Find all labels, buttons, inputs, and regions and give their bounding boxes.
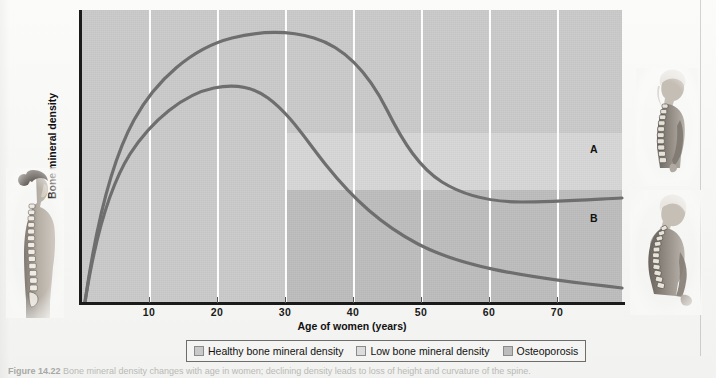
figure-caption: Figure 14.22 Bone mineral density change… — [8, 366, 708, 376]
legend-label-low: Low bone mineral density — [370, 345, 489, 357]
x-tick-70 — [557, 297, 558, 303]
x-tick-label-10: 10 — [134, 306, 164, 318]
illustration-young-woman-upright-spine — [6, 168, 64, 318]
bone-density-figure: 10 20 30 40 50 60 70 Age of women (years… — [0, 0, 716, 378]
legend-swatch-healthy — [194, 346, 204, 356]
older-woman-severe-kyphosis-icon — [630, 190, 702, 315]
x-tick-40 — [353, 297, 354, 303]
x-tick-label-60: 60 — [474, 306, 504, 318]
x-tick-50 — [421, 297, 422, 303]
curve-label-a: A — [590, 143, 598, 155]
x-tick-label-40: 40 — [338, 306, 368, 318]
legend-label-healthy: Healthy bone mineral density — [208, 345, 343, 357]
x-tick-label-50: 50 — [406, 306, 436, 318]
x-axis-line — [79, 302, 625, 305]
figure-caption-text: Bone mineral density changes with age in… — [63, 366, 531, 376]
x-axis-label: Age of women (years) — [82, 320, 622, 332]
x-tick-10 — [149, 297, 150, 303]
figure-caption-number: Figure 14.22 — [8, 366, 61, 376]
legend-swatch-osteoporosis — [503, 346, 513, 356]
legend-entry-osteoporosis: Osteoporosis — [503, 345, 579, 357]
y-axis-line — [79, 10, 82, 305]
illustration-older-woman-mild-kyphosis — [636, 68, 698, 186]
x-tick-30 — [285, 297, 286, 303]
legend-label-osteoporosis: Osteoporosis — [517, 345, 579, 357]
older-woman-mild-kyphosis-icon — [636, 68, 698, 186]
young-woman-figure-icon — [6, 168, 64, 318]
curve-b — [85, 86, 622, 302]
curve-a — [85, 32, 622, 302]
legend-entry-low: Low bone mineral density — [356, 345, 489, 357]
curve-label-b: B — [590, 212, 598, 224]
plot-area — [82, 10, 622, 302]
legend: Healthy bone mineral density Low bone mi… — [186, 340, 586, 362]
x-tick-60 — [489, 297, 490, 303]
illustration-older-woman-severe-kyphosis — [630, 190, 702, 315]
legend-swatch-low — [356, 346, 366, 356]
x-tick-label-20: 20 — [202, 306, 232, 318]
x-tick-label-30: 30 — [270, 306, 300, 318]
legend-entry-healthy: Healthy bone mineral density — [194, 345, 343, 357]
curve-layer — [82, 10, 622, 302]
x-tick-label-70: 70 — [542, 306, 572, 318]
x-tick-20 — [217, 297, 218, 303]
